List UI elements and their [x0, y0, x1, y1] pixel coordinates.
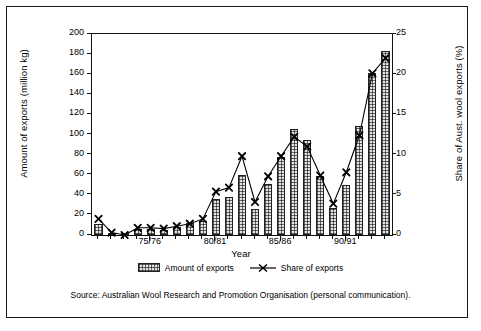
- source-note: Source: Australian Wool Research and Pro…: [0, 290, 481, 300]
- y-axis-left-title: Amount of exports (million kg): [18, 29, 29, 199]
- y-tick-right: 20: [396, 67, 422, 77]
- y-tick-mark-right: [392, 33, 396, 34]
- x-tick-mark: [371, 235, 372, 239]
- line-marker: [382, 55, 388, 61]
- y-tick-left: 160: [58, 67, 84, 77]
- x-axis-title: Year: [91, 248, 391, 259]
- line-marker: [239, 153, 245, 159]
- line-marker: [330, 200, 336, 206]
- y-tick-mark-left: [87, 193, 91, 194]
- line-marker: [226, 184, 232, 190]
- line-marker: [278, 153, 284, 159]
- plot-area: [91, 33, 393, 236]
- x-tick-mark: [254, 235, 255, 239]
- line-marker: [265, 173, 271, 179]
- y-tick-right: 0: [396, 228, 422, 238]
- line-marker: [291, 134, 297, 140]
- legend-line-swatch: [250, 263, 276, 273]
- x-tick-mark: [241, 235, 242, 239]
- y-axis-left-ticks: 020406080100120140160180200: [56, 0, 84, 331]
- line-marker: [200, 216, 206, 222]
- y-tick-left: 140: [58, 87, 84, 97]
- y-tick-mark-right: [392, 234, 396, 235]
- y-tick-left: 100: [58, 128, 84, 138]
- x-tick-mark-major: [280, 235, 281, 241]
- x-tick-mark: [97, 235, 98, 239]
- line-marker: [317, 172, 323, 178]
- y-tick-mark-right: [392, 73, 396, 74]
- y-tick-right: 10: [396, 148, 422, 158]
- y-tick-mark-left: [87, 234, 91, 235]
- y-tick-right: 25: [396, 27, 422, 37]
- y-tick-mark-left: [87, 133, 91, 134]
- y-tick-right: 15: [396, 107, 422, 117]
- y-tick-left: 20: [58, 208, 84, 218]
- x-tick-mark-major: [149, 235, 150, 241]
- y-axis-right-title: Share of Aust. wool exports (%): [453, 29, 464, 199]
- y-tick-mark-right: [392, 193, 396, 194]
- y-tick-left: 180: [58, 47, 84, 57]
- y-tick-mark-right: [392, 153, 396, 154]
- y-tick-mark-left: [87, 33, 91, 34]
- y-tick-left: 80: [58, 148, 84, 158]
- line-marker: [304, 143, 310, 149]
- x-tick-mark: [110, 235, 111, 239]
- line-marker: [213, 188, 219, 194]
- legend-bar-label: Amount of exports: [165, 263, 234, 273]
- y-tick-left: 0: [58, 228, 84, 238]
- x-tick-mark: [175, 235, 176, 239]
- x-tick-mark: [306, 235, 307, 239]
- x-tick-mark-major: [345, 235, 346, 241]
- y-tick-left: 120: [58, 107, 84, 117]
- y-tick-right: 5: [396, 188, 422, 198]
- y-tick-left: 60: [58, 168, 84, 178]
- y-tick-left: 200: [58, 27, 84, 37]
- legend-bar-swatch: [138, 263, 160, 272]
- line-marker: [343, 169, 349, 175]
- x-tick-mark: [319, 235, 320, 239]
- y-tick-mark-left: [87, 213, 91, 214]
- y-tick-left: 40: [58, 188, 84, 198]
- y-tick-mark-left: [87, 173, 91, 174]
- line-marker: [95, 216, 101, 222]
- line-marker: [252, 199, 258, 205]
- y-tick-mark-left: [87, 93, 91, 94]
- y-tick-mark-right: [392, 113, 396, 114]
- x-tick-mark-major: [214, 235, 215, 241]
- y-tick-mark-left: [87, 113, 91, 114]
- chart-canvas: Amount of exports (million kg) Share of …: [0, 0, 481, 331]
- y-axis-right-ticks: 0510152025: [396, 0, 424, 331]
- x-tick-mark: [384, 235, 385, 239]
- y-tick-mark-left: [87, 153, 91, 154]
- line-series: [92, 34, 392, 235]
- chart-legend: Amount of exportsShare of exports: [0, 262, 481, 273]
- y-tick-mark-left: [87, 53, 91, 54]
- x-tick-mark: [188, 235, 189, 239]
- x-tick-mark: [123, 235, 124, 239]
- legend-line-label: Share of exports: [281, 263, 343, 273]
- y-tick-mark-left: [87, 73, 91, 74]
